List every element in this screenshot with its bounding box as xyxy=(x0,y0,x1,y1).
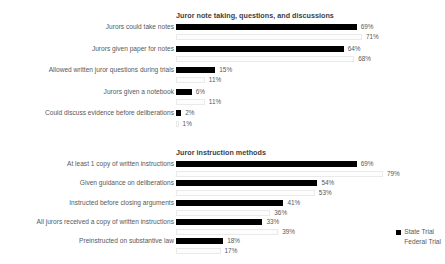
bar-row-federal: 1% xyxy=(176,121,438,127)
category-group: Given guidance on deliberations54%53% xyxy=(0,180,445,196)
legend-label: Federal Trial xyxy=(404,237,441,247)
chart-juror-note-taking: Juror note taking, questions, and discus… xyxy=(0,0,445,140)
legend-label: State Trial xyxy=(404,227,434,237)
bar-row-state: 54% xyxy=(176,180,438,186)
bar-state xyxy=(176,180,317,186)
legend-swatch-icon xyxy=(396,230,401,235)
legend-swatch-icon xyxy=(396,240,401,245)
bar-value-label: 68% xyxy=(358,56,371,62)
category-axis-label: Could discuss evidence before deliberati… xyxy=(0,110,174,117)
bar-federal xyxy=(176,77,205,83)
bar-value-label: 36% xyxy=(274,210,287,216)
bar-value-label: 71% xyxy=(366,34,379,40)
bar-row-federal: 11% xyxy=(176,77,438,83)
bar-row-state: 15% xyxy=(176,67,438,73)
bar-row-state: 41% xyxy=(176,200,438,206)
bar-value-label: 53% xyxy=(319,190,332,196)
category-group: Instructed before closing arguments41%36… xyxy=(0,200,445,216)
bar-state xyxy=(176,200,283,206)
bar-federal xyxy=(176,210,270,216)
bar-federal xyxy=(176,121,179,127)
category-axis-label: Jurors given paper for notes xyxy=(0,46,174,53)
category-axis-label: Given guidance on deliberations xyxy=(0,180,174,187)
bar-value-label: 6% xyxy=(196,89,205,95)
bar-row-federal: 71% xyxy=(176,34,438,40)
legend-item-federal[interactable]: Federal Trial xyxy=(396,237,441,247)
bar-value-label: 41% xyxy=(287,199,300,205)
bar-row-federal: 79% xyxy=(176,171,438,177)
bar-row-federal: 36% xyxy=(176,210,438,216)
bar-value-label: 39% xyxy=(282,229,295,235)
bar-federal xyxy=(176,34,362,40)
bar-value-label: 1% xyxy=(183,120,192,126)
category-group: Jurors given a notebook6%11% xyxy=(0,89,445,105)
bar-value-label: 11% xyxy=(209,99,221,105)
bar-row-federal: 53% xyxy=(176,190,438,196)
bar-row-federal: 11% xyxy=(176,99,438,105)
bar-state xyxy=(176,46,344,52)
legend-item-state[interactable]: State Trial xyxy=(396,227,441,237)
category-group: Allowed written juror questions during t… xyxy=(0,67,445,83)
bar-value-label: 2% xyxy=(185,110,194,116)
category-axis-label: Jurors could take notes xyxy=(0,24,174,31)
bar-value-label: 18% xyxy=(227,238,240,244)
bar-federal xyxy=(176,229,278,235)
bar-row-federal: 68% xyxy=(176,56,438,62)
category-axis-label: Jurors given a notebook xyxy=(0,89,174,96)
category-group: Preinstructed on substantive law18%17% xyxy=(0,238,445,254)
bar-federal xyxy=(176,171,383,177)
bar-row-state: 33% xyxy=(176,219,438,225)
bar-state xyxy=(176,24,357,30)
bar-federal xyxy=(176,99,205,105)
category-group: Jurors could take notes69%71% xyxy=(0,24,445,40)
bar-row-state: 6% xyxy=(176,89,438,95)
bar-value-label: 54% xyxy=(321,180,334,186)
bar-row-state: 64% xyxy=(176,46,438,52)
category-group: All jurors received a copy of written in… xyxy=(0,219,445,235)
category-group: Jurors given paper for notes64%68% xyxy=(0,46,445,62)
bar-federal xyxy=(176,248,221,254)
category-axis-label: Preinstructed on substantive law xyxy=(0,238,174,245)
bar-value-label: 33% xyxy=(266,219,279,225)
bar-value-label: 17% xyxy=(225,248,238,254)
category-axis-label: All jurors received a copy of written in… xyxy=(0,219,174,226)
bar-row-state: 2% xyxy=(176,110,438,116)
category-group: Could discuss evidence before deliberati… xyxy=(0,110,445,126)
chart-legend: State TrialFederal Trial xyxy=(396,227,441,247)
chart-juror-instruction-methods: Juror instruction methods At least 1 cop… xyxy=(0,140,445,264)
category-axis-label: Allowed written juror questions during t… xyxy=(0,67,174,74)
bar-value-label: 69% xyxy=(361,161,374,167)
bar-state xyxy=(176,110,181,116)
category-axis-label: At least 1 copy of written instructions xyxy=(0,161,174,168)
bar-value-label: 11% xyxy=(209,77,221,83)
bar-value-label: 69% xyxy=(361,24,374,30)
bar-state xyxy=(176,219,262,225)
bar-state xyxy=(176,89,192,95)
bar-value-label: 15% xyxy=(219,67,232,73)
chart-title: Juror instruction methods xyxy=(176,148,266,157)
category-group: At least 1 copy of written instructions6… xyxy=(0,161,445,177)
bar-value-label: 64% xyxy=(348,45,361,51)
bar-row-state: 69% xyxy=(176,24,438,30)
bar-state xyxy=(176,238,223,244)
chart-title: Juror note taking, questions, and discus… xyxy=(176,11,334,20)
bar-row-federal: 17% xyxy=(176,248,438,254)
bar-federal xyxy=(176,56,354,62)
category-axis-label: Instructed before closing arguments xyxy=(0,200,174,207)
bar-row-state: 69% xyxy=(176,161,438,167)
bar-value-label: 79% xyxy=(387,171,400,177)
bar-state xyxy=(176,67,215,73)
bar-state xyxy=(176,161,357,167)
bar-federal xyxy=(176,190,315,196)
